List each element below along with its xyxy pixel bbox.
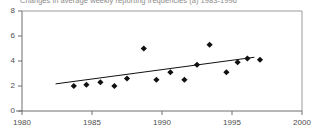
- y-axis-tick-label: 2: [1, 82, 15, 90]
- chart-axes: [16, 11, 302, 115]
- data-point: [167, 69, 173, 75]
- data-point: [223, 69, 229, 75]
- data-point-series: [71, 42, 263, 89]
- chart-container: Changes in average weekly reporting freq…: [0, 0, 324, 137]
- y-axis-tick-label: 0: [1, 107, 15, 115]
- x-axis-tick-label: 2000: [282, 119, 322, 127]
- data-point: [207, 42, 213, 48]
- y-axis-tick-label: 8: [1, 7, 15, 15]
- x-axis-tick-label: 1985: [72, 119, 112, 127]
- data-point: [194, 62, 200, 68]
- data-point: [257, 57, 263, 63]
- x-axis-tick-label: 1980: [2, 119, 42, 127]
- data-point: [124, 75, 130, 81]
- data-point: [97, 79, 103, 85]
- x-axis-tick-label: 1995: [212, 119, 252, 127]
- y-axis-tick-label: 6: [1, 32, 15, 40]
- data-point: [181, 77, 187, 83]
- data-point: [141, 45, 147, 51]
- data-point: [111, 83, 117, 89]
- chart-plot-area: [0, 0, 324, 137]
- y-axis-tick-label: 4: [1, 57, 15, 65]
- data-point: [153, 77, 159, 83]
- data-point: [244, 55, 250, 61]
- data-point: [71, 83, 77, 89]
- data-point: [83, 82, 89, 88]
- x-axis-tick-label: 1990: [142, 119, 182, 127]
